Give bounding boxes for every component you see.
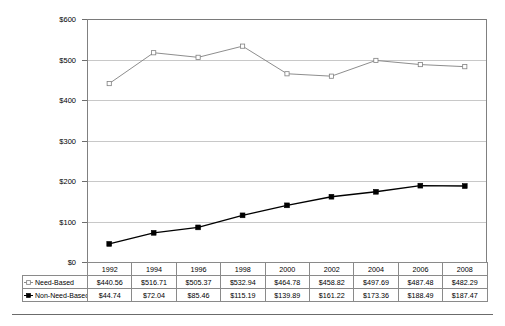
- data-point-marker: [240, 44, 244, 48]
- data-point-marker: [418, 183, 423, 188]
- table-cell: $505.37: [176, 276, 220, 289]
- table-cell: $188.49: [398, 289, 442, 302]
- table-cell: $161.22: [309, 289, 353, 302]
- data-point-marker: [240, 213, 245, 218]
- data-point-marker: [463, 65, 467, 69]
- table-cell: $173.36: [354, 289, 398, 302]
- table-column-header-2004: 2004: [354, 263, 398, 276]
- data-point-marker: [374, 58, 378, 62]
- legend-label: Non-Need-Based: [35, 291, 88, 300]
- series-line: [109, 186, 465, 244]
- data-point-marker: [329, 194, 334, 199]
- plot-region: $0$100$200$300$400$500$600: [0, 0, 505, 266]
- table-cell: $464.78: [265, 276, 309, 289]
- table-cell: $187.47: [443, 289, 487, 302]
- open-triangle-marker-icon: [24, 278, 33, 287]
- table-column-header-2006: 2006: [398, 263, 442, 276]
- table-cell: $497.69: [354, 276, 398, 289]
- table-column-header-1996: 1996: [176, 263, 220, 276]
- data-point-marker: [329, 74, 333, 78]
- data-point-marker: [285, 203, 290, 208]
- table-column-header-2002: 2002: [309, 263, 353, 276]
- table-column-header-1992: 1992: [88, 263, 132, 276]
- data-point-marker: [418, 62, 422, 66]
- data-point-marker: [107, 241, 112, 246]
- data-point-marker: [373, 189, 378, 194]
- table-column-header-1994: 1994: [132, 263, 176, 276]
- table-header-row: 199219941996199820002002200420062008: [23, 263, 488, 276]
- table-column-header-2000: 2000: [265, 263, 309, 276]
- table-cell: $44.74: [88, 289, 132, 302]
- data-point-marker: [107, 81, 111, 85]
- table-cell: $487.48: [398, 276, 442, 289]
- data-table-region: 199219941996199820002002200420062008 Nee…: [22, 262, 487, 302]
- legend-entry-need-based: Need-Based: [23, 276, 88, 289]
- table-cell: $516.71: [132, 276, 176, 289]
- legend-entry-non-need-based: Non-Need-Based: [23, 289, 88, 302]
- table-cell: $139.89: [265, 289, 309, 302]
- table-column-header-1998: 1998: [221, 263, 265, 276]
- bottom-divider: [12, 314, 493, 315]
- series-need-based: [107, 44, 467, 86]
- table-cell: $458.82: [309, 276, 353, 289]
- data-point-marker: [152, 51, 156, 55]
- table-cell: $85.46: [176, 289, 220, 302]
- chart-container: $0$100$200$300$400$500$600 1992199419961…: [0, 0, 505, 326]
- table-column-header-2008: 2008: [443, 263, 487, 276]
- table-cell: $440.56: [88, 276, 132, 289]
- data-point-marker: [285, 72, 289, 76]
- table-cell: $115.19: [221, 289, 265, 302]
- data-point-marker: [196, 55, 200, 59]
- table-cell: $532.94: [221, 276, 265, 289]
- series-non-need-based: [107, 183, 467, 246]
- filled-square-marker-icon: [24, 291, 33, 300]
- data-point-marker: [462, 184, 467, 189]
- table-row: Non-Need-Based$44.74$72.04$85.46$115.19$…: [23, 289, 488, 302]
- table-cell: $72.04: [132, 289, 176, 302]
- table-row: Need-Based$440.56$516.71$505.37$532.94$4…: [23, 276, 488, 289]
- data-point-marker: [196, 225, 201, 230]
- data-point-marker: [151, 230, 156, 235]
- legend-label: Need-Based: [35, 278, 74, 287]
- table-corner-cell: [23, 263, 88, 276]
- series-layer: [0, 0, 505, 266]
- data-table: 199219941996199820002002200420062008 Nee…: [22, 262, 488, 302]
- series-line: [109, 46, 465, 83]
- table-cell: $482.29: [443, 276, 487, 289]
